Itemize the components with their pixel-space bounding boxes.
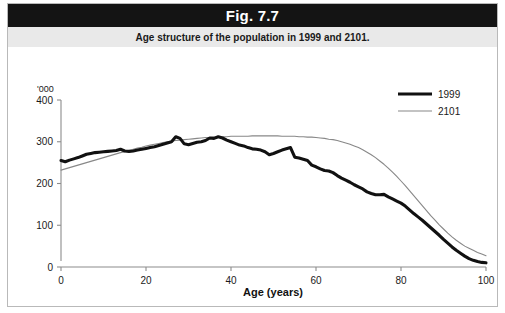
legend-label-1999: 1999 [438, 89, 461, 100]
x-axis-title: Age (years) [243, 286, 303, 298]
x-axis-tick-label: 0 [58, 275, 64, 286]
figure-root: Fig. 7.7 Age structure of the population… [0, 0, 505, 313]
x-axis-tick-labels: 020406080100 [58, 275, 495, 286]
x-axis-ticks [61, 267, 486, 271]
x-axis-tick-label: 20 [140, 275, 152, 286]
x-axis-tick-label: 80 [395, 275, 407, 286]
y-axis-ticks [57, 100, 61, 267]
x-axis-tick-label: 60 [310, 275, 322, 286]
legend-label-2101: 2101 [438, 106, 461, 117]
y-axis-tick-label: 400 [36, 95, 53, 106]
x-axis-tick-label: 100 [478, 275, 495, 286]
x-axis-tick-label: 40 [225, 275, 237, 286]
y-axis-unit-label: '000 [37, 84, 54, 94]
y-axis-tick-labels: 0100200300400 [36, 95, 53, 273]
page-title: Fig. 7.7 [226, 7, 279, 24]
y-axis-tick-label: 0 [47, 262, 53, 273]
figure-title-bar: Fig. 7.7 [8, 4, 497, 27]
y-axis-tick-label: 300 [36, 136, 53, 147]
figure-subtitle-bar: Age structure of the population in 1999 … [8, 27, 497, 47]
y-axis-tick-label: 100 [36, 220, 53, 231]
chart-legend: 1999 2101 [398, 89, 461, 117]
chart-plot-area: 0100200300400 020406080100 '000 Age (yea… [8, 48, 497, 306]
age-structure-line-chart: 0100200300400 020406080100 '000 Age (yea… [8, 48, 497, 306]
figure-subtitle: Age structure of the population in 1999 … [136, 32, 370, 43]
series-line-1999 [61, 137, 486, 263]
y-axis-tick-label: 200 [36, 178, 53, 189]
